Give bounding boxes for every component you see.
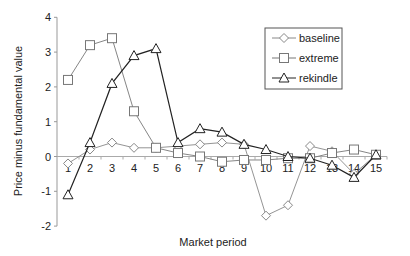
y-axis: -2-101234	[41, 11, 57, 232]
extreme-marker	[328, 149, 337, 158]
x-tick-label: 4	[131, 162, 137, 174]
x-tick-label: 3	[109, 162, 115, 174]
legend-label: rekindle	[299, 72, 338, 84]
baseline-marker	[284, 201, 293, 210]
x-tick-label: 15	[370, 162, 382, 174]
x-tick-label: 11	[282, 162, 293, 174]
baseline-marker	[218, 138, 227, 147]
baseline-marker	[196, 140, 205, 149]
extreme-marker	[240, 155, 249, 164]
y-tick-label: 2	[45, 81, 51, 93]
x-tick-label: 2	[87, 162, 93, 174]
rekindle-marker	[195, 124, 205, 133]
extreme-marker	[64, 75, 73, 84]
extreme-marker	[152, 143, 161, 152]
baseline-marker	[130, 143, 139, 152]
x-axis-title: Market period	[179, 236, 246, 248]
y-tick-label: -2	[41, 220, 51, 232]
x-tick-label: 6	[175, 162, 181, 174]
extreme-marker	[196, 152, 205, 161]
extreme-marker	[350, 145, 359, 154]
extreme-marker	[130, 107, 139, 116]
x-tick-label: 12	[304, 162, 316, 174]
legend-label: baseline	[299, 32, 340, 44]
legend-item-extreme: extreme	[272, 52, 339, 64]
y-axis-title: Price minus fundamental value	[12, 46, 24, 196]
rekindle-marker	[151, 44, 161, 53]
y-tick-label: 3	[45, 46, 51, 58]
rekindle-marker	[85, 138, 95, 147]
legend: baselineextremerekindle	[265, 28, 342, 89]
x-tick-label: 5	[153, 162, 159, 174]
extreme-marker	[86, 41, 95, 50]
extreme-marker	[174, 149, 183, 158]
y-tick-label: 4	[45, 11, 51, 23]
line-chart: -2-101234 123456789101112131415 Price mi…	[0, 0, 410, 256]
extreme-marker	[218, 157, 227, 166]
square-icon	[280, 54, 289, 63]
baseline-marker	[108, 138, 117, 147]
legend-label: extreme	[299, 52, 339, 64]
y-tick-label: -1	[41, 185, 51, 197]
rekindle-marker	[63, 190, 73, 199]
y-tick-label: 0	[45, 151, 51, 163]
baseline-marker	[262, 211, 271, 220]
extreme-marker	[262, 155, 271, 164]
baseline-marker	[306, 142, 315, 151]
y-tick-label: 1	[45, 116, 51, 128]
extreme-marker	[108, 34, 117, 43]
x-tick-label: 7	[197, 162, 203, 174]
rekindle-marker	[173, 138, 183, 147]
